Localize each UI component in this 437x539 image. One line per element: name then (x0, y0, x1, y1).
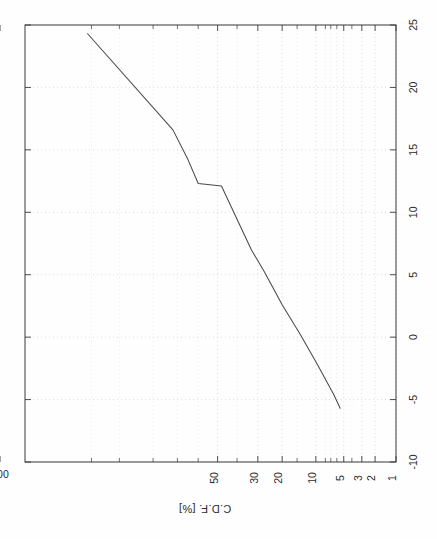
cdf-probability-plot-figure: 1005030201053212520151050-5-10C.D.F. [%] (0, 0, 437, 539)
x-tick-label-20: 20 (272, 472, 284, 484)
x-tick-label-1: 1 (386, 475, 398, 481)
y-tick-label-0: 0 (407, 334, 419, 340)
y-tick-label-10: 10 (407, 206, 419, 218)
plot-frame (25, 25, 396, 462)
y-tick-label-m5: -5 (407, 395, 419, 404)
x-tick-label-3: 3 (352, 475, 364, 481)
x-tick-label-5: 5 (334, 475, 346, 481)
y-tick-label-5: 5 (407, 272, 419, 278)
y-tick-label-20: 20 (407, 81, 419, 93)
x-tick-label-30: 30 (248, 472, 260, 484)
y-tick-label-25: 25 (407, 19, 419, 31)
plot-canvas: 1005030201053212520151050-5-10C.D.F. [%] (0, 0, 437, 539)
axis-title-cdf: C.D.F. [%] (179, 503, 232, 515)
x-tick-label-10: 10 (306, 472, 318, 484)
x-tick-label-2: 2 (365, 475, 377, 481)
cdf-data-curve (88, 34, 341, 409)
y-tick-label-m10: -10 (407, 454, 419, 469)
x-tick-label-50: 50 (208, 472, 220, 484)
y-tick-label-15: 15 (407, 144, 419, 156)
x-tick-label-100: 100 (0, 468, 9, 480)
